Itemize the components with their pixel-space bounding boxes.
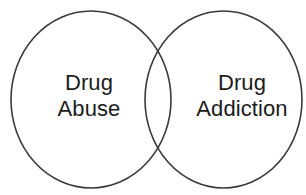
label-drug-addiction-line2: Addiction xyxy=(168,96,306,122)
label-drug-abuse: Drug Abuse xyxy=(18,70,160,122)
venn-diagram-canvas: Drug Abuse Drug Addiction xyxy=(0,0,306,195)
label-drug-addiction: Drug Addiction xyxy=(168,70,306,122)
label-drug-addiction-line1: Drug xyxy=(168,70,306,96)
label-drug-abuse-line2: Abuse xyxy=(18,96,160,122)
label-drug-abuse-line1: Drug xyxy=(18,70,160,96)
